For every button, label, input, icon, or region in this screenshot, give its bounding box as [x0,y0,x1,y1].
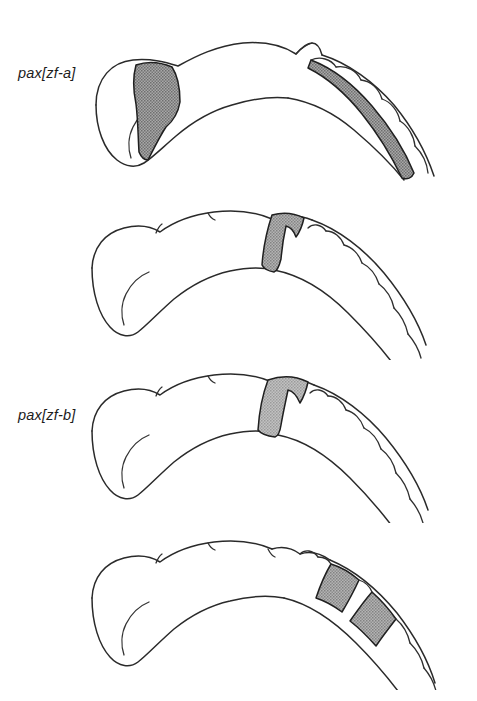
ventricle-line-3 [122,435,149,488]
expression-domain-mhb-3 [258,377,308,437]
brain-diagram-4 [0,515,477,690]
expression-domain-r5-4 [350,592,396,646]
rhombomere-boundary-2-4 [362,263,379,284]
expression-domain-anterior-1 [134,63,180,160]
brain-diagram-1 [0,10,477,185]
ventricle-line-2 [122,272,149,325]
panel-eng: eng [0,348,477,523]
panel-zf-krox20: zf-Krox20 [0,515,477,690]
rhombomere-boundary-3-1 [310,390,328,396]
rhombomere-boundary-1-6 [415,146,428,173]
rhombomere-boundary-4-4 [396,619,410,643]
hindbrain-dorsal-edge-3 [314,385,428,510]
rhombomere-boundary-2-2 [326,231,344,245]
brain-outline-dorsal-3 [92,374,272,431]
brain-outline-dorsal-2 [92,211,272,268]
rhombomere-boundary-1-5 [400,121,415,146]
brain-outline-ventral-4 [92,596,284,665]
panel-pax-zf-b: pax[zf-b] [0,185,477,360]
rhombomere-boundary-3-6 [396,473,410,499]
hindbrain-ventral-edge-2 [274,270,394,360]
brain-outline-ventral-1 [96,97,288,166]
panel-label-pax-zf-a: pax[zf-a] [18,65,75,81]
figure-root: pax[zf-a] pax[zf-b] [0,0,477,701]
rhombomere-boundary-2-1 [308,225,326,231]
brain-diagram-3 [0,348,477,523]
rhombomere-boundary-2-6 [394,308,408,334]
rhombomere-boundary-3-2 [328,396,346,410]
brain-outline-ventral-3 [92,431,274,499]
hindbrain-dorsal-edge-2 [312,220,426,345]
midbrain-notch-4b [268,549,275,557]
rhombomere-boundary-4-2 [318,557,331,564]
midbrain-notch-1 [296,43,312,54]
brain-outline-dorsal-1 [96,43,322,105]
midbrain-notch-2 [208,213,215,220]
expression-domain-mhb-2 [262,213,304,272]
rhombomere-boundary-2-5 [379,284,394,308]
rhombomere-boundary-4-5 [410,643,424,668]
brain-outline-ventral-2 [92,268,274,336]
brain-diagram-2 [0,185,477,360]
rhombomere-boundary-3-4 [364,428,381,449]
midbrain-notch-3 [208,376,215,383]
hindbrain-ventral-edge-3 [278,435,395,523]
midbrain-notch-4 [208,543,215,550]
panel-pax-zf-a: pax[zf-a] [0,10,477,185]
expression-domain-hindbrain-band-1 [308,60,414,179]
ventricle-line-4 [122,602,149,655]
rhombomere-boundary-3-5 [381,449,396,473]
brain-outline-dorsal-4 [92,541,272,598]
